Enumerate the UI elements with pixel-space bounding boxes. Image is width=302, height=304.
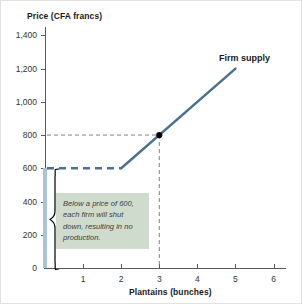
y-tick-label: 400 bbox=[1, 197, 37, 207]
x-tick-label: 4 bbox=[189, 274, 205, 284]
y-axis-title: Price (CFA francs) bbox=[27, 11, 102, 21]
x-tick-label: 6 bbox=[266, 274, 282, 284]
y-tick-label: 0 bbox=[1, 263, 37, 273]
x-tick-mark bbox=[83, 264, 84, 269]
y-tick-label: 1,000 bbox=[1, 97, 37, 107]
x-tick-mark bbox=[159, 264, 160, 269]
x-tick-label: 1 bbox=[75, 274, 91, 284]
y-tick-label: 600 bbox=[1, 163, 37, 173]
firm-supply-curve bbox=[121, 69, 235, 169]
y-tick-label: 1,200 bbox=[1, 64, 37, 74]
x-tick-label: 3 bbox=[151, 274, 167, 284]
equilibrium-point-marker bbox=[156, 132, 162, 138]
y-tick-label: 1,400 bbox=[1, 30, 37, 40]
x-tick-mark bbox=[197, 264, 198, 269]
x-tick-label: 2 bbox=[113, 274, 129, 284]
x-tick-mark bbox=[121, 264, 122, 269]
y-tick-mark bbox=[41, 102, 46, 103]
y-tick-label: 800 bbox=[1, 130, 37, 140]
firm-supply-label: Firm supply bbox=[219, 53, 270, 63]
x-tick-mark bbox=[274, 264, 275, 269]
y-tick-mark bbox=[41, 135, 46, 136]
x-tick-label: 5 bbox=[227, 274, 243, 284]
y-tick-label: 200 bbox=[1, 230, 37, 240]
x-axis-title: Plantains (bunches) bbox=[129, 287, 212, 297]
y-tick-mark bbox=[41, 69, 46, 70]
y-tick-mark bbox=[41, 35, 46, 36]
x-axis-line bbox=[44, 268, 286, 269]
x-tick-mark bbox=[235, 264, 236, 269]
annotation-text: Below a price of 600, each firm will shu… bbox=[63, 198, 145, 244]
chart-figure: Price (CFA francs) 02004006008001,0001,2… bbox=[0, 0, 302, 304]
shutdown-segment bbox=[43, 168, 47, 268]
